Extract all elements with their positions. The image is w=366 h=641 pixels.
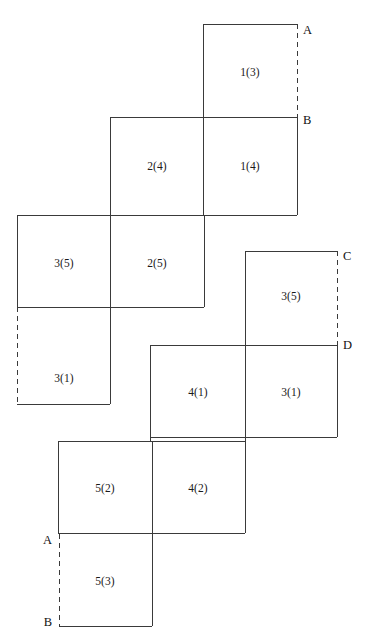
- diagram-canvas: [0, 0, 366, 641]
- point-label-d: D: [343, 338, 352, 353]
- cell-3-5b: 3(5): [281, 290, 301, 302]
- cell-1-3: 1(3): [240, 66, 260, 78]
- cell-3-5a: 3(5): [54, 257, 74, 269]
- cell-3-1b: 3(1): [281, 386, 301, 398]
- packing-diagram: 1(3)2(4)1(4)3(5)2(5)3(1)3(5)4(1)3(1)5(2)…: [0, 0, 366, 641]
- point-label-c: C: [343, 249, 351, 264]
- solid-edges-group: [17, 24, 337, 626]
- cell-4-1: 4(1): [188, 386, 208, 398]
- cell-2-4: 2(4): [147, 160, 167, 172]
- cell-4-2: 4(2): [188, 482, 208, 494]
- point-label-a-top: A: [303, 23, 312, 38]
- cell-3-1a: 3(1): [54, 372, 74, 384]
- cell-1-4: 1(4): [240, 160, 260, 172]
- point-label-b-top: B: [303, 113, 311, 128]
- cell-2-5: 2(5): [147, 257, 167, 269]
- point-label-b-bottom: B: [44, 615, 52, 630]
- dashed-edges-group: [17, 24, 337, 626]
- cell-5-2: 5(2): [95, 482, 115, 494]
- cell-5-3: 5(3): [95, 575, 115, 587]
- point-label-a-bottom: A: [43, 533, 52, 548]
